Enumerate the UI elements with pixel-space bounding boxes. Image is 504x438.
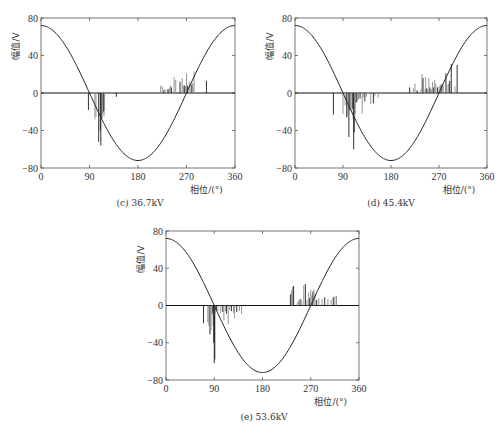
y-tick-label: 0 xyxy=(158,300,163,311)
chart-e-plot: 09018027036080400−40−80幅值/V相位/(°) xyxy=(0,0,504,438)
x-tick-label: 360 xyxy=(352,383,367,394)
caption-e: (e) 53.6kV xyxy=(240,412,287,422)
x-axis-label: 相位/(°) xyxy=(314,396,347,407)
x-tick-label: 90 xyxy=(209,383,219,394)
y-tick-label: 40 xyxy=(153,263,163,274)
x-tick-label: 0 xyxy=(164,383,169,394)
y-axis-label: 幅值/V xyxy=(135,245,146,273)
y-tick-label: −80 xyxy=(147,375,163,386)
x-tick-label: 270 xyxy=(303,383,318,394)
y-tick-label: 80 xyxy=(153,226,163,237)
y-tick-label: −40 xyxy=(147,337,163,348)
x-tick-label: 180 xyxy=(255,383,270,394)
